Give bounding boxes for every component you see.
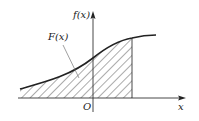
origin-label: O	[83, 101, 91, 112]
x-axis-label: x	[178, 101, 184, 112]
cdf-diagram: f(x) F(x) O x	[0, 0, 199, 121]
y-axis-label: f(x)	[72, 9, 90, 20]
shaded-area	[15, 30, 135, 100]
area-label: F(x)	[47, 31, 68, 42]
